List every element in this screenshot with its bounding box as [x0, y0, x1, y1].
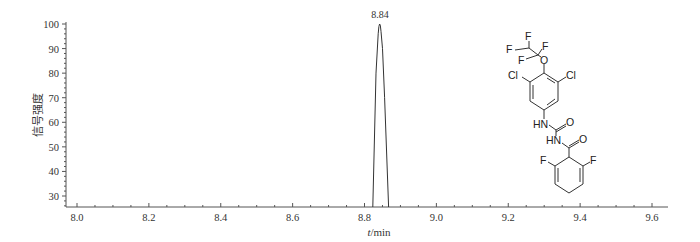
y-tick-label: 70	[49, 93, 60, 104]
x-tick-label: 8.2	[142, 212, 155, 223]
x-axis-title: t/min	[367, 226, 391, 238]
atom-o-amide: O	[579, 133, 587, 145]
atom-cl-left: Cl	[508, 69, 518, 81]
x-tick-label: 9.0	[430, 212, 443, 223]
x-axis: 8.08.28.48.68.89.09.29.49.6	[66, 203, 668, 223]
chemical-structure: F F F F O Cl Cl HN O HN O F F	[506, 30, 596, 193]
y-tick-label: 100	[43, 19, 59, 30]
y-axis-title: 信号强度	[31, 93, 44, 137]
chromatogram-chart: 30405060708090100 8.08.28.48.68.89.09.29…	[0, 0, 700, 242]
atom-o-ether: O	[540, 54, 548, 66]
atom-f-lower: F	[518, 54, 524, 66]
y-axis: 30405060708090100	[43, 19, 66, 207]
y-tick-label: 40	[49, 166, 60, 177]
y-tick-label: 90	[49, 44, 60, 55]
y-tick-label: 60	[49, 117, 60, 128]
chromatogram-trace	[373, 24, 389, 207]
y-tick-label: 50	[49, 142, 60, 153]
atom-f-ring-right: F	[590, 154, 596, 166]
atom-hn-2: HN	[546, 134, 561, 146]
atom-hn-1: HN	[533, 118, 548, 130]
y-tick-label: 80	[49, 68, 60, 79]
atom-f-left: F	[506, 43, 512, 55]
x-tick-label: 9.2	[502, 212, 515, 223]
atom-o-urea: O	[566, 116, 574, 128]
peak-label: 8.84	[371, 9, 389, 20]
x-tick-label: 9.6	[645, 212, 658, 223]
x-tick-label: 8.0	[70, 212, 83, 223]
atom-f-right: F	[542, 40, 548, 52]
x-tick-label: 8.6	[286, 212, 299, 223]
x-tick-label: 9.4	[574, 212, 588, 223]
y-tick-label: 30	[49, 191, 60, 202]
atom-f-top: F	[525, 30, 531, 42]
x-tick-label: 8.8	[358, 212, 371, 223]
x-tick-label: 8.4	[214, 212, 228, 223]
atom-cl-right: Cl	[566, 69, 576, 81]
atom-f-ring-left: F	[540, 154, 546, 166]
